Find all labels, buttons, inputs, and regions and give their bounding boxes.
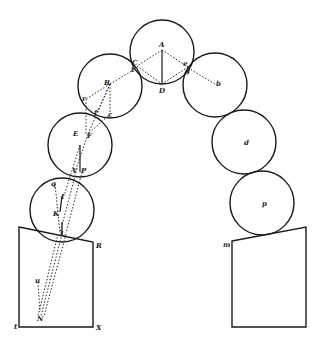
label-q: q [51,179,56,188]
line-L-N-2 [41,234,62,316]
label-N: N [36,314,44,323]
label-c: c [108,110,113,119]
label-g: g [185,66,190,75]
label-I: I [60,192,65,201]
label-p: p [262,199,267,208]
label-B: B [103,78,110,87]
label-t-bottom: t [14,322,18,331]
label-K: K [52,209,60,218]
label-R: R [95,241,102,250]
label-F: F [86,131,93,140]
label-P: P [80,166,87,175]
label-d: d [244,138,249,147]
line-u-N [38,282,40,312]
label-b: b [216,79,221,88]
label-E: E [72,129,79,138]
label-L: L [59,229,65,238]
label-D: D [158,86,166,95]
line-L-N-3 [44,234,66,316]
line-L-N-1 [38,234,58,316]
label-V: V [72,166,79,175]
arch-diagram: A C t e g D B r f c E F V P q I K L R u … [0,0,325,346]
circle-b [183,53,247,117]
label-u: u [35,276,40,285]
right-pier [232,227,306,327]
line-A-C [137,50,162,66]
line-e-b [188,68,215,84]
label-m: m [223,240,230,249]
label-X: X [95,323,102,332]
label-A: A [158,40,165,49]
line-P-L [66,172,82,233]
